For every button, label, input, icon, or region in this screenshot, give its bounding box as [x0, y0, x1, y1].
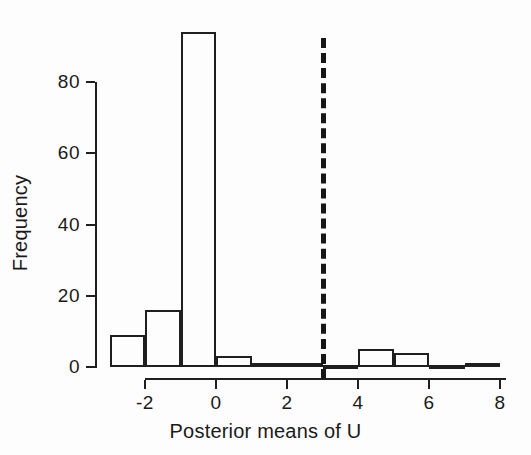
histogram-bar [287, 363, 323, 367]
x-axis-line [145, 378, 506, 380]
histogram-bar [181, 32, 217, 367]
x-axis-tick [286, 380, 288, 389]
y-axis-title: Frequency [9, 143, 31, 303]
histogram-bar [145, 310, 181, 367]
x-axis-tick-label: 8 [480, 392, 520, 414]
histogram-bar [394, 353, 430, 367]
x-axis-tick-label: 6 [409, 392, 449, 414]
x-axis-tick [428, 380, 430, 389]
reference-line [321, 38, 326, 379]
x-axis-tick [144, 380, 146, 389]
y-axis-tick-label: 60 [40, 143, 80, 162]
histogram-bar [358, 349, 394, 367]
x-axis-tick [499, 380, 501, 389]
x-axis-tick-label: -2 [125, 392, 165, 414]
x-axis-tick-label: 4 [338, 392, 378, 414]
y-axis-line [95, 82, 97, 368]
histogram-figure: 020406080 -202468 Posterior means of U F… [0, 0, 531, 455]
y-axis-tick [86, 81, 95, 83]
y-axis-tick [86, 366, 95, 368]
y-axis-tick [86, 224, 95, 226]
y-axis-tick-label: 20 [40, 286, 80, 305]
x-axis-title: Posterior means of U [0, 420, 531, 442]
x-axis-tick [215, 380, 217, 389]
y-axis-tick [86, 152, 95, 154]
y-axis-tick [86, 295, 95, 297]
x-axis-tick-label: 2 [267, 392, 307, 414]
histogram-bar [110, 335, 146, 367]
x-axis-tick [357, 380, 359, 389]
histogram-bar [252, 363, 288, 367]
histogram-bar [323, 365, 359, 369]
x-axis-tick-label: 0 [196, 392, 236, 414]
histogram-bar [429, 365, 465, 369]
y-axis-tick-label: 0 [40, 357, 80, 376]
y-axis-tick-label: 80 [40, 72, 80, 91]
histogram-bar [216, 356, 252, 367]
histogram-bar [465, 363, 501, 367]
y-axis-tick-label: 40 [40, 215, 80, 234]
